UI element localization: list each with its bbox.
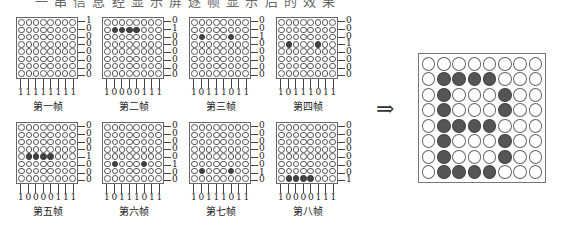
led-off: [468, 57, 482, 71]
led-off: [329, 70, 336, 77]
led-off: [119, 175, 126, 182]
led-off: [104, 153, 111, 160]
led-on: [40, 153, 47, 160]
column-signal: 1: [190, 184, 197, 202]
led-off: [133, 168, 140, 175]
led-off: [62, 168, 69, 175]
led-off: [220, 56, 227, 63]
led-off: [18, 41, 25, 48]
frame-4: 0001000010111011第四帧: [270, 12, 350, 112]
led-off: [315, 175, 322, 182]
led-off: [329, 56, 336, 63]
led-off: [206, 175, 213, 182]
column-signal: 1: [133, 184, 140, 202]
row-signal-labels: 10000000: [78, 17, 92, 79]
led-off: [206, 168, 213, 175]
led-off: [148, 124, 155, 131]
led-off: [62, 153, 69, 160]
led-off: [148, 153, 155, 160]
led-off: [206, 48, 213, 55]
row-signal: 0: [164, 176, 178, 184]
led-off: [126, 56, 133, 63]
led-off: [206, 70, 213, 77]
column-signal: 1: [156, 184, 163, 202]
led-off: [141, 63, 148, 70]
led-off: [513, 72, 527, 86]
led-off: [26, 70, 33, 77]
led-off: [228, 27, 235, 34]
led-off: [329, 19, 336, 26]
led-off: [26, 168, 33, 175]
led-off: [155, 139, 162, 146]
led-off: [47, 139, 54, 146]
column-signal: 1: [307, 79, 314, 97]
column-signal: 1: [17, 79, 24, 97]
led-off: [286, 161, 293, 168]
led-on: [228, 168, 235, 175]
led-on: [452, 119, 466, 133]
led-off: [220, 63, 227, 70]
led-off: [329, 132, 336, 139]
led-off: [206, 124, 213, 131]
led-off: [155, 168, 162, 175]
led-off: [133, 175, 140, 182]
led-off: [148, 146, 155, 153]
led-off: [513, 88, 527, 102]
led-off: [300, 70, 307, 77]
led-off: [40, 63, 47, 70]
led-on: [199, 34, 206, 41]
led-off: [452, 103, 466, 117]
led-off: [422, 72, 436, 86]
led-off: [119, 70, 126, 77]
led-off: [26, 19, 33, 26]
column-signal: 1: [213, 79, 220, 97]
led-off: [293, 132, 300, 139]
led-on: [483, 165, 497, 179]
led-off: [483, 88, 497, 102]
led-off: [529, 150, 543, 164]
led-off: [40, 161, 47, 168]
led-off: [286, 56, 293, 63]
led-off: [112, 48, 119, 55]
led-off: [119, 19, 126, 26]
led-off: [26, 124, 33, 131]
led-off: [293, 139, 300, 146]
led-off: [329, 146, 336, 153]
led-off: [278, 70, 285, 77]
led-off: [235, 63, 242, 70]
led-off: [315, 124, 322, 131]
led-on: [141, 161, 148, 168]
led-off: [62, 132, 69, 139]
led-off: [33, 41, 40, 48]
led-off: [141, 48, 148, 55]
led-off: [483, 57, 497, 71]
column-signal-labels: 10111011: [277, 79, 337, 97]
led-off: [104, 132, 111, 139]
column-signal: 0: [126, 79, 133, 97]
led-off: [307, 168, 314, 175]
led-off: [498, 57, 512, 71]
column-signal: 1: [205, 184, 212, 202]
led-off: [213, 124, 220, 131]
led-off: [300, 56, 307, 63]
led-off: [133, 161, 140, 168]
result-dot-matrix: [418, 53, 546, 183]
led-off: [235, 19, 242, 26]
column-signal: 1: [141, 79, 148, 97]
led-off: [126, 19, 133, 26]
led-off: [148, 139, 155, 146]
dot-matrix-grid: [102, 17, 164, 79]
led-off: [40, 41, 47, 48]
led-off: [329, 34, 336, 41]
led-off: [228, 124, 235, 131]
led-off: [329, 175, 336, 182]
led-off: [529, 88, 543, 102]
led-off: [119, 56, 126, 63]
led-off: [220, 48, 227, 55]
led-off: [437, 57, 451, 71]
led-off: [293, 48, 300, 55]
led-off: [47, 132, 54, 139]
led-off: [148, 175, 155, 182]
led-off: [322, 168, 329, 175]
led-off: [468, 134, 482, 148]
